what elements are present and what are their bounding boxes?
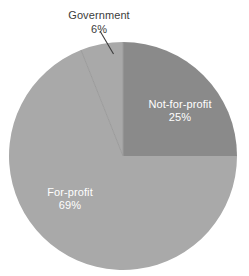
slice-label-not-for-profit-value: 25% [131, 111, 229, 124]
pie-chart-graphic [0, 0, 249, 276]
pie-chart: Government 6% Not-for-profit 25% For-pro… [0, 0, 249, 276]
slice-label-government-value: 6% [47, 22, 151, 36]
slice-label-for-profit-value: 69% [21, 199, 119, 212]
slice-label-not-for-profit-name: Not-for-profit [148, 98, 211, 110]
slice-label-government: Government 6% [47, 8, 151, 36]
slice-label-for-profit: For-profit 69% [21, 186, 119, 212]
slice-label-government-name: Government [68, 9, 130, 21]
slice-label-not-for-profit: Not-for-profit 25% [131, 98, 229, 124]
slice-label-for-profit-name: For-profit [47, 186, 93, 198]
